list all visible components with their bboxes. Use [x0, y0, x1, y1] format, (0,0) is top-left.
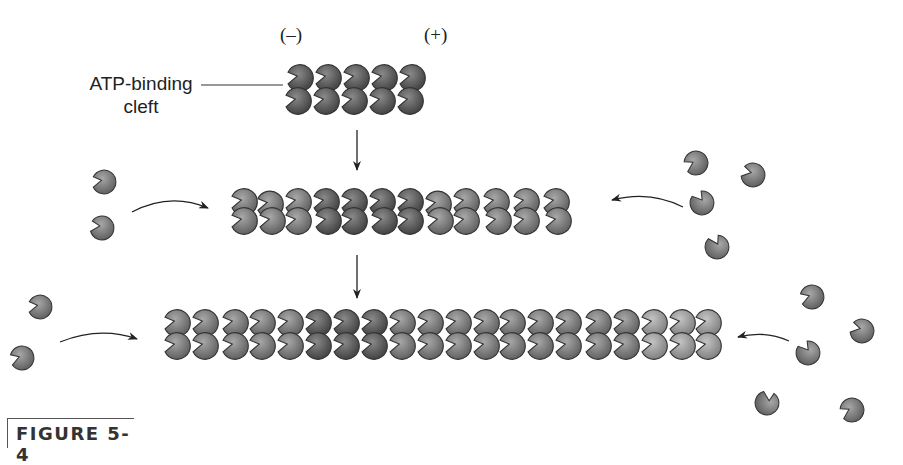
- actin-subunit: [400, 65, 425, 92]
- filament-elongation-2: [165, 310, 721, 360]
- arrow-minus-end-addition-1: [132, 201, 208, 212]
- actin-subunit: [89, 214, 115, 241]
- actin-subunit: [486, 208, 511, 235]
- actin-subunit: [799, 283, 825, 310]
- actin-subunit: [344, 65, 369, 92]
- actin-subunit: [686, 188, 718, 219]
- actin-subunit: [9, 344, 35, 371]
- actin-subunit: [546, 208, 571, 235]
- actin-subunit: [696, 333, 721, 360]
- arrow-minus-end-addition-2: [60, 333, 137, 342]
- actin-subunit: [702, 233, 732, 262]
- actin-subunit: [223, 333, 248, 360]
- actin-subunit: [342, 88, 367, 115]
- actin-subunit: [278, 333, 303, 360]
- actin-subunit: [446, 333, 471, 360]
- actin-subunit: [306, 333, 331, 360]
- callout-line1: ATP-binding: [76, 72, 206, 95]
- actin-subunit: [165, 333, 190, 360]
- atp-binding-cleft-label: ATP-binding cleft: [76, 72, 206, 118]
- actin-subunit: [586, 333, 611, 360]
- filament-seed: [286, 65, 425, 115]
- actin-subunit: [753, 390, 780, 416]
- actin-subunit: [528, 333, 553, 360]
- arrow-plus-end-addition-2: [738, 334, 789, 341]
- actin-subunit: [334, 333, 359, 360]
- actin-subunit: [792, 338, 824, 369]
- actin-subunit: [193, 333, 218, 360]
- actin-subunit: [232, 208, 257, 235]
- actin-subunit: [500, 333, 525, 360]
- actin-subunit: [848, 316, 877, 346]
- actin-subunit: [838, 395, 867, 425]
- actin-subunit: [372, 65, 397, 92]
- callout-line2: cleft: [76, 95, 206, 118]
- actin-subunit: [474, 333, 499, 360]
- actin-subunit: [454, 208, 479, 235]
- actin-subunit: [390, 333, 415, 360]
- figure-label: FIGURE 5-4: [16, 423, 134, 465]
- actin-subunit: [362, 333, 387, 360]
- actin-subunit: [29, 295, 52, 319]
- actin-subunit: [614, 333, 639, 360]
- actin-subunit: [288, 65, 313, 92]
- actin-subunit: [556, 333, 581, 360]
- free-actin-monomers: [9, 148, 877, 425]
- actin-subunit: [642, 333, 667, 360]
- minus-end-label: (–): [280, 24, 302, 46]
- actin-subunit: [514, 208, 539, 235]
- actin-subunit: [398, 208, 423, 235]
- actin-subunit: [286, 88, 311, 115]
- actin-subunit: [314, 88, 339, 115]
- actin-subunit: [316, 65, 341, 92]
- actin-subunit: [316, 208, 341, 235]
- actin-subunit: [428, 208, 453, 235]
- actin-subunit: [398, 88, 423, 115]
- actin-subunit: [739, 160, 768, 190]
- actin-subunit: [370, 88, 395, 115]
- actin-subunit: [260, 208, 285, 235]
- plus-end-label: (+): [424, 24, 447, 46]
- actin-subunit: [418, 333, 443, 360]
- filament-elongation-1: [232, 189, 571, 235]
- arrow-plus-end-addition-1: [612, 196, 683, 207]
- actin-subunit: [670, 333, 695, 360]
- actin-subunit: [250, 333, 275, 360]
- actin-subunit: [372, 208, 397, 235]
- actin-subunit: [93, 170, 116, 194]
- figure-label-box: FIGURE 5-4: [7, 418, 134, 448]
- actin-subunit: [286, 208, 311, 235]
- actin-subunit: [342, 208, 367, 235]
- actin-subunit: [682, 148, 711, 178]
